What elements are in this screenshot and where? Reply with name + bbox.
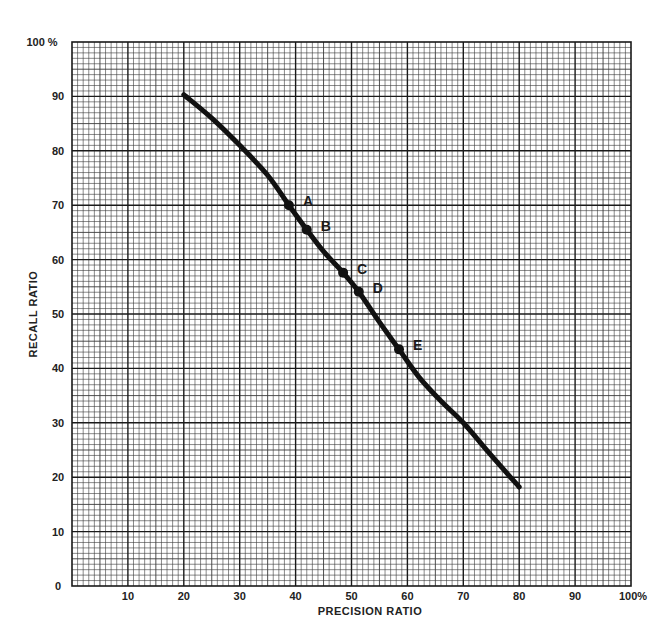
point-label-d: D	[373, 280, 383, 296]
y-tick-label: 20	[52, 471, 64, 483]
y-tick-label: 80	[52, 145, 64, 157]
x-tick-label: 70	[457, 590, 469, 602]
point-label-c: C	[357, 261, 367, 277]
point-marker-e	[394, 344, 404, 354]
x-tick-label: 30	[234, 590, 246, 602]
y-tick-label: 0	[55, 580, 61, 592]
point-label-a: A	[303, 193, 313, 209]
y-tick-label: 70	[52, 199, 64, 211]
y-tick-label: 50	[52, 308, 64, 320]
x-tick-label: 20	[178, 590, 190, 602]
x-tick-label: 60	[401, 590, 413, 602]
point-label-b: B	[321, 218, 331, 234]
y-tick-label: 10	[52, 526, 64, 538]
point-marker-a	[284, 200, 294, 210]
x-tick-label: 80	[513, 590, 525, 602]
y-axis-label: RECALL RATIO	[27, 271, 39, 358]
point-label-e: E	[413, 337, 422, 353]
y-tick-label: 60	[52, 254, 64, 266]
point-marker-c	[338, 268, 348, 278]
point-marker-d	[354, 287, 364, 297]
x-tick-label: 90	[569, 590, 581, 602]
point-marker-b	[302, 225, 312, 235]
x-tick-label: 100%	[619, 590, 647, 602]
x-axis-label: PRECISION RATIO	[318, 605, 422, 617]
y-tick-label: 100 %	[26, 36, 57, 48]
x-tick-label: 10	[122, 590, 134, 602]
x-axis-ticks: 102030405060708090100%	[122, 590, 648, 602]
x-tick-label: 40	[289, 590, 301, 602]
x-tick-label: 50	[345, 590, 357, 602]
chart: 0102030405060708090100 % 102030405060708…	[0, 0, 662, 630]
y-tick-label: 40	[52, 362, 64, 374]
y-tick-label: 30	[52, 417, 64, 429]
y-tick-label: 90	[52, 90, 64, 102]
